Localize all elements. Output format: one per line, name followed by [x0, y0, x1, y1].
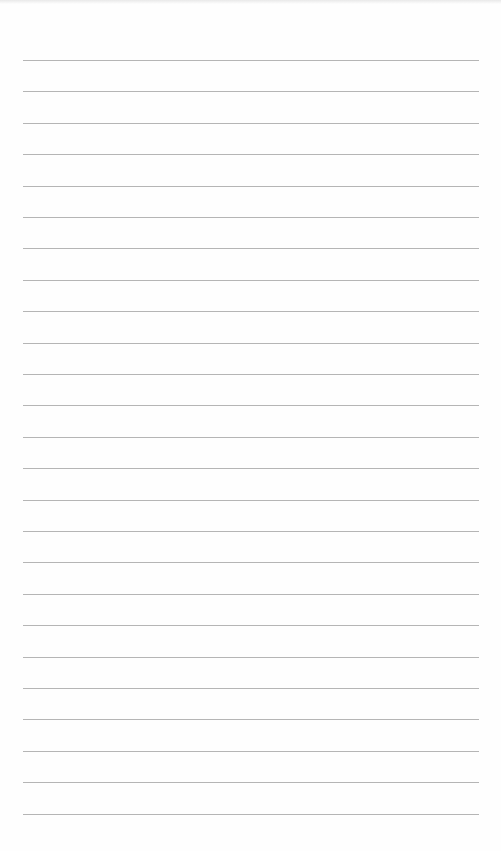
- ruled-line: [23, 280, 479, 281]
- ruled-line: [23, 405, 479, 406]
- ruled-line: [23, 186, 479, 187]
- ruled-line: [23, 374, 479, 375]
- ruled-line: [23, 719, 479, 720]
- ruled-line: [23, 248, 479, 249]
- ruled-lines: [23, 0, 479, 851]
- ruled-line: [23, 123, 479, 124]
- ruled-line: [23, 154, 479, 155]
- ruled-line: [23, 531, 479, 532]
- ruled-line: [23, 468, 479, 469]
- ruled-line: [23, 217, 479, 218]
- ruled-line: [23, 814, 479, 815]
- ruled-line: [23, 500, 479, 501]
- ruled-line: [23, 688, 479, 689]
- ruled-line: [23, 625, 479, 626]
- ruled-line: [23, 782, 479, 783]
- ruled-line: [23, 562, 479, 563]
- ruled-line: [23, 343, 479, 344]
- ruled-line: [23, 437, 479, 438]
- ruled-line: [23, 657, 479, 658]
- ruled-line: [23, 311, 479, 312]
- ruled-paper-page: [0, 0, 501, 851]
- ruled-line: [23, 91, 479, 92]
- ruled-line: [23, 751, 479, 752]
- ruled-line: [23, 594, 479, 595]
- ruled-line: [23, 60, 479, 61]
